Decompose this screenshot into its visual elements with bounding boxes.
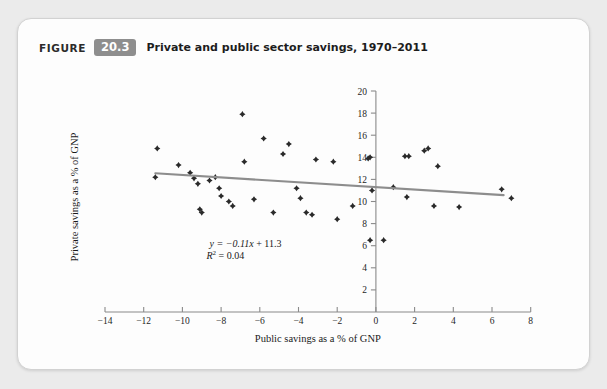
data-point (367, 237, 373, 243)
y-tick-label: 8 (362, 219, 367, 229)
regression-line (155, 173, 503, 195)
x-axis: −14−12−10−8−6−4−202468 (98, 307, 534, 326)
y-tick-label: 14 (357, 153, 367, 163)
y-axis-title: Private savings as a % of GNP (69, 132, 80, 261)
data-point (206, 177, 212, 183)
x-tick-label: −4 (293, 316, 303, 326)
screenshot-root: FIGURE 20.3 Private and public sector sa… (0, 0, 607, 389)
y-axis: 2468101214161820 (357, 87, 376, 313)
data-point (286, 141, 292, 147)
x-axis-title: Public savings as a % of GNP (255, 333, 381, 344)
x-tick-label: −8 (216, 316, 226, 326)
regression-equation: y = −0.11x + 11.3 (208, 238, 281, 249)
r-squared-annotation: R2 = 0.04 (205, 249, 244, 261)
y-tick-label: 20 (357, 87, 367, 97)
y-tick-label: 16 (357, 131, 367, 141)
y-tick-label: 10 (357, 197, 367, 207)
data-point (404, 194, 410, 200)
data-point (431, 203, 437, 209)
x-tick-label: −10 (175, 316, 190, 326)
data-point (499, 186, 505, 192)
trend-line (155, 173, 503, 195)
data-point (381, 237, 387, 243)
data-point (456, 204, 462, 210)
data-point (330, 159, 336, 165)
data-point (261, 135, 267, 141)
y-tick-label: 4 (362, 263, 367, 273)
data-point (508, 195, 514, 201)
data-point (313, 156, 319, 162)
y-tick-label: 2 (362, 285, 367, 295)
x-tick-label: −2 (332, 316, 342, 326)
data-point (218, 193, 224, 199)
data-point (241, 159, 247, 165)
figure-card: FIGURE 20.3 Private and public sector sa… (17, 18, 590, 370)
data-point (226, 198, 232, 204)
data-point (216, 185, 222, 191)
data-point (309, 212, 315, 218)
data-point (303, 209, 309, 215)
x-tick-label: 6 (490, 316, 495, 326)
data-point (251, 196, 257, 202)
data-point (435, 163, 441, 169)
x-tick-label: −12 (136, 316, 151, 326)
data-point (230, 203, 236, 209)
data-point (406, 153, 412, 159)
x-tick-label: −14 (98, 316, 113, 326)
data-point (350, 203, 356, 209)
data-point (175, 162, 181, 168)
scatter-plot: −14−12−10−8−6−4−202468 2468101214161820 … (18, 19, 591, 371)
x-tick-label: 0 (374, 316, 379, 326)
data-point (297, 195, 303, 201)
x-tick-label: 4 (451, 316, 456, 326)
data-point (270, 209, 276, 215)
data-point (195, 181, 201, 187)
x-tick-label: 8 (528, 316, 533, 326)
x-tick-label: −6 (255, 316, 265, 326)
y-tick-label: 18 (357, 109, 367, 119)
x-tick-label: 2 (412, 316, 417, 326)
data-point (369, 187, 375, 193)
data-point (280, 151, 286, 157)
data-point (293, 185, 299, 191)
data-point (152, 174, 158, 180)
data-point (154, 145, 160, 151)
y-tick-label: 6 (362, 241, 367, 251)
data-point (239, 111, 245, 117)
regression-annotation: y = −0.11x + 11.3R2 = 0.04 (205, 238, 281, 261)
plot-svg: −14−12−10−8−6−4−202468 2468101214161820 … (18, 19, 591, 371)
data-point (334, 216, 340, 222)
y-tick-label: 12 (357, 175, 367, 185)
